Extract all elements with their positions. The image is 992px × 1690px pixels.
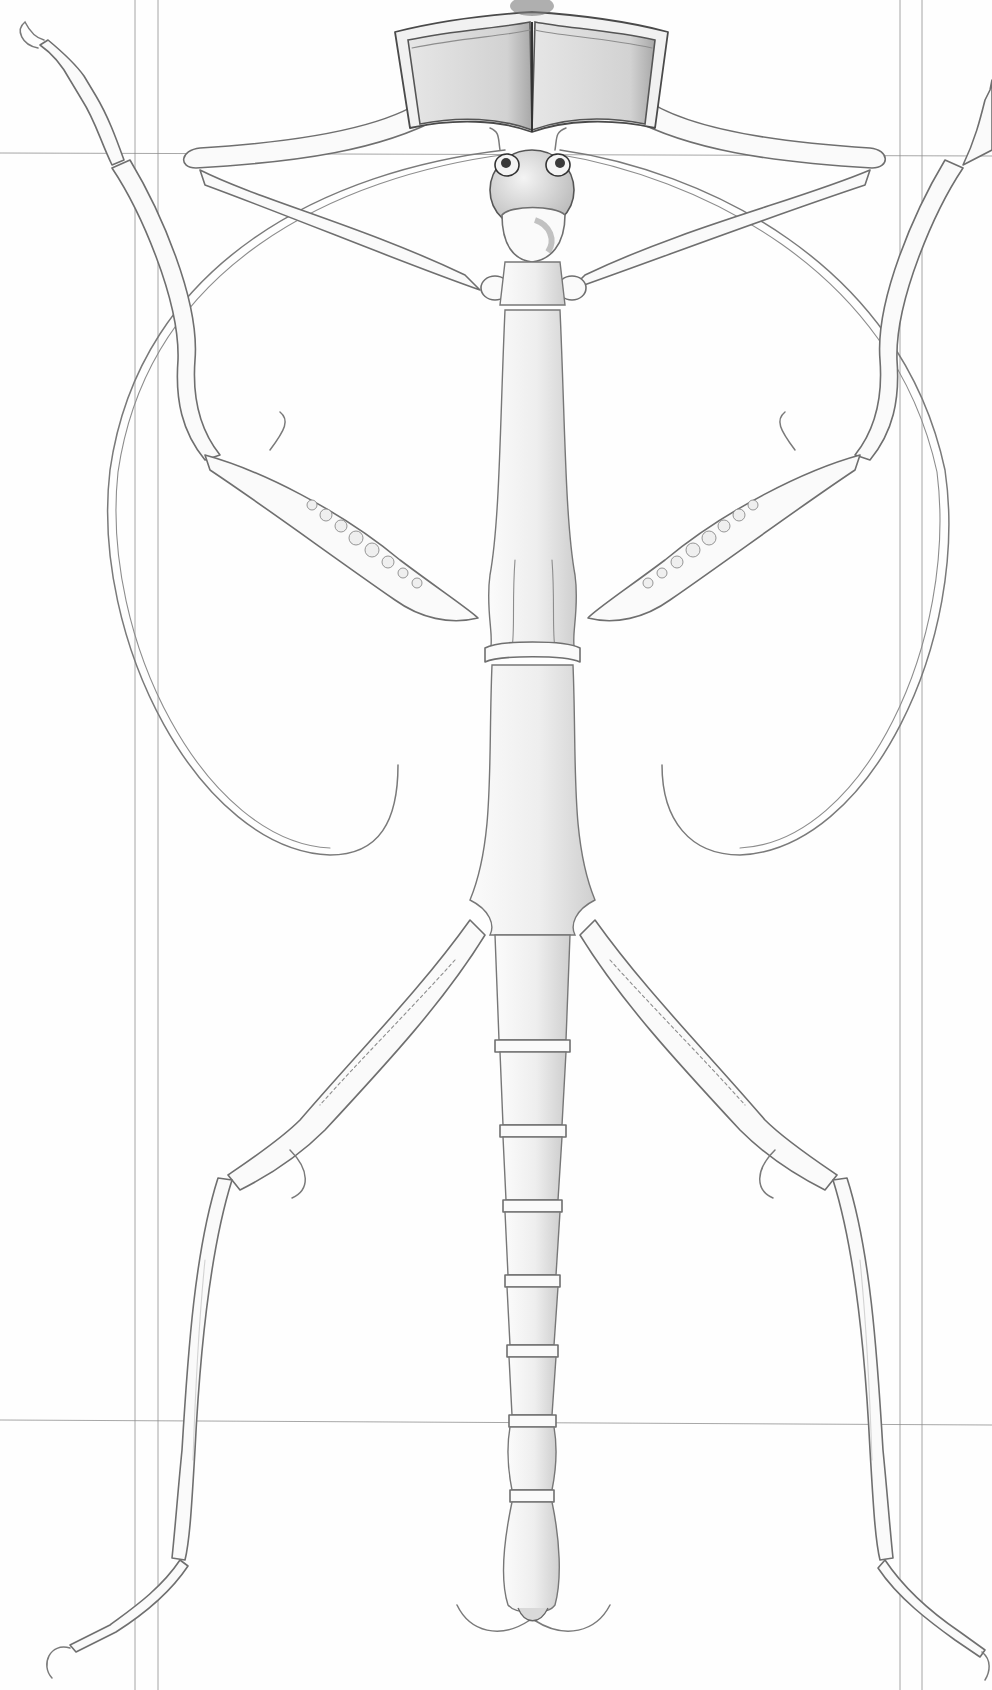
left-fore-tarsus — [20, 22, 124, 165]
right-hind-claw — [982, 1652, 989, 1680]
thorax — [470, 262, 595, 935]
stick-insect-illustration — [0, 0, 992, 1690]
left-raptorial-femur — [205, 455, 478, 621]
abdomen-tip — [504, 1502, 560, 1613]
left-hind-tibia — [172, 1178, 232, 1560]
left-foreleg-upper — [112, 160, 220, 460]
insect-head — [490, 128, 574, 262]
right-mid-femur — [580, 920, 837, 1190]
drawing-canvas — [0, 0, 992, 1690]
right-fore-tarsus — [963, 80, 992, 165]
guide-horizontal-bottom — [0, 1420, 992, 1425]
right-raptorial-femur — [588, 455, 860, 621]
left-arm-holding-book — [184, 95, 440, 168]
right-hind-tibia — [833, 1178, 893, 1560]
left-mid-femur — [228, 920, 485, 1190]
right-spine-claw — [780, 412, 795, 450]
mesothorax — [489, 310, 577, 650]
open-book — [395, 0, 668, 132]
right-hind-tarsus — [878, 1560, 985, 1657]
left-spine-claw — [270, 412, 285, 450]
left-hind-tarsus — [70, 1560, 188, 1652]
thoracic-collar — [485, 642, 580, 662]
metathorax — [470, 665, 595, 935]
right-foreleg-upper — [855, 160, 963, 460]
left-hind-claw — [47, 1647, 70, 1678]
abdomen — [495, 935, 570, 1613]
right-arm-holding-book — [630, 95, 885, 168]
cerci — [457, 1605, 610, 1631]
mouthparts — [502, 208, 565, 263]
